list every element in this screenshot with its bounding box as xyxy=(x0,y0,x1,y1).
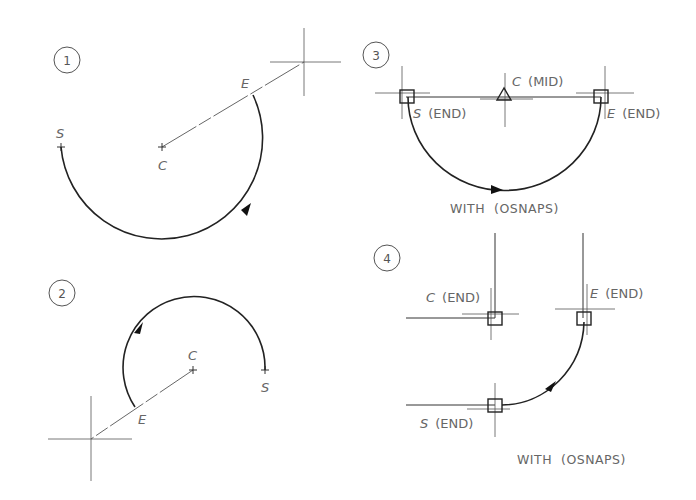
panel-1: 1 S C E xyxy=(54,28,341,239)
center-label: C xyxy=(188,348,198,363)
arc-methods-diagram: 1 S C E 2 C S E 3 xyxy=(0,0,696,500)
caption: WITH (OSNAPS) xyxy=(450,201,559,216)
start-label: S xyxy=(56,126,64,141)
end-label: E (END) xyxy=(607,104,660,121)
radius-line xyxy=(162,62,304,147)
center-label: C (MID) xyxy=(512,72,563,89)
midpoint-snap-marker xyxy=(497,88,511,100)
end-label: E xyxy=(241,76,250,91)
caption: WITH (OSNAPS) xyxy=(517,452,626,467)
direction-arrow xyxy=(491,185,503,194)
direction-arrow xyxy=(241,203,251,216)
panel-4: 4 C (END) E (END) S (END) WITH xyxy=(374,233,643,467)
arc xyxy=(502,322,584,405)
start-label: S (END) xyxy=(413,104,466,121)
start-label: S xyxy=(261,380,269,395)
end-label: E (END) xyxy=(590,284,643,301)
start-label: S (END) xyxy=(420,414,473,431)
panel-number: 2 xyxy=(58,287,66,301)
panel-number: 1 xyxy=(63,54,71,68)
panel-number: 3 xyxy=(372,49,380,63)
panel-3: 3 S (END) C (MID) E (END) WITH (OSNAPS xyxy=(363,42,660,216)
panel-2: 2 C S E xyxy=(48,280,269,481)
center-label: C xyxy=(158,158,168,173)
panel-number: 4 xyxy=(383,252,391,266)
end-label: E xyxy=(138,412,147,427)
center-label: C (END) xyxy=(426,288,480,305)
radius-line xyxy=(91,370,193,439)
